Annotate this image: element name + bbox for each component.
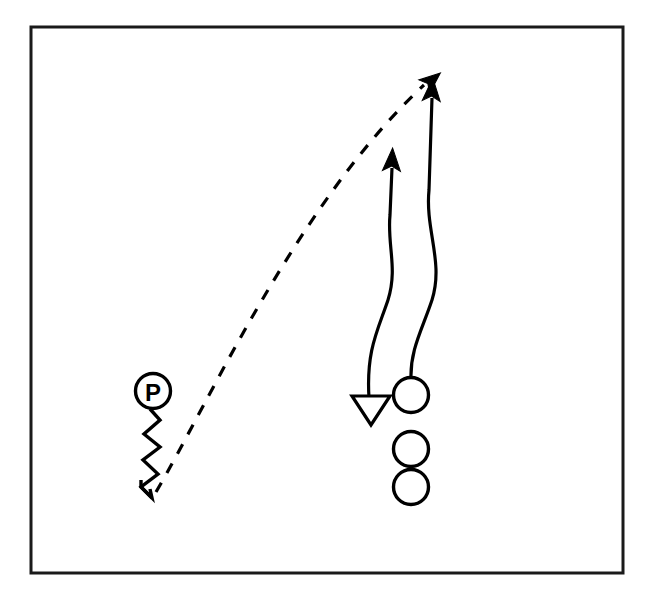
player-circle-1[interactable]	[394, 378, 429, 413]
player-circle-2[interactable]	[394, 432, 429, 467]
passer-marker-label: P	[145, 379, 161, 406]
field-frame	[31, 27, 623, 573]
player-circle-3[interactable]	[394, 470, 429, 505]
play-diagram-canvas: P	[0, 0, 650, 603]
play-diagram-svg: P	[0, 0, 650, 603]
